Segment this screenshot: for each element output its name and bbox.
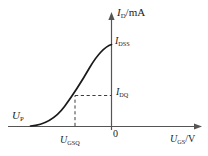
- up-symbol: U: [12, 109, 20, 121]
- up-subscript: P: [20, 115, 24, 122]
- x-axis-label-subscript: GS: [177, 138, 185, 145]
- idq-label: IDQ: [116, 87, 128, 97]
- x-axis-label-unit: /V: [185, 133, 195, 144]
- idq-subscript: DQ: [119, 91, 128, 98]
- y-axis: [108, 12, 114, 130]
- x-axis-label: UGS/V: [170, 134, 195, 144]
- origin-label: 0: [113, 129, 118, 139]
- y-axis-label-unit: /mA: [126, 6, 146, 18]
- idss-subscript: DSS: [118, 40, 129, 47]
- ugsq-subscript: GSQ: [67, 139, 79, 146]
- jfet-transfer-characteristic-figure: ID/mA IDSS IDQ UP UGSQ 0 UGS/V: [0, 0, 208, 156]
- y-axis-label-subscript: D: [121, 12, 126, 19]
- idss-label: IDSS: [115, 36, 130, 46]
- quiescent-guides: [75, 96, 112, 127]
- y-axis-label: ID/mA: [117, 7, 145, 18]
- up-label: UP: [12, 110, 24, 121]
- ugsq-label: UGSQ: [60, 135, 80, 145]
- transfer-curve: [31, 45, 112, 127]
